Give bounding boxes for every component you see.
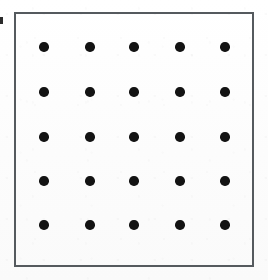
dot-grid-figure	[0, 0, 268, 280]
scan-edge-mark-icon	[0, 17, 3, 24]
plot-frame	[14, 12, 254, 267]
